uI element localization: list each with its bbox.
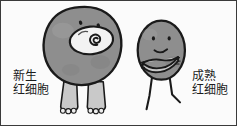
label-newborn-line2: 红细胞 [13, 83, 49, 97]
illustration-scene [1, 1, 236, 125]
red-blood-cell-figure: 新生 红细胞 成熟 红细胞 [0, 0, 237, 126]
label-mature-line1: 成熟 [192, 69, 228, 83]
label-mature-red-blood-cell: 成熟 红细胞 [192, 69, 228, 97]
newborn-cell-legs [60, 82, 105, 114]
newborn-cell-toes-right [88, 108, 104, 114]
newborn-cell-character [44, 7, 122, 114]
mature-cell-character [138, 21, 185, 110]
label-mature-line2: 红细胞 [192, 83, 228, 97]
label-newborn-red-blood-cell: 新生 红细胞 [13, 69, 49, 97]
label-newborn-line1: 新生 [13, 69, 49, 83]
newborn-cell-toes-left [60, 108, 76, 114]
